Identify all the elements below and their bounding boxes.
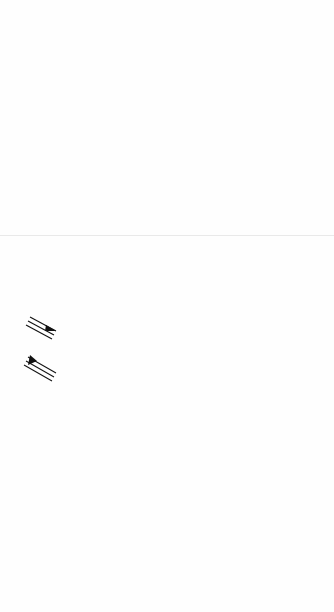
sinistral-fault-symbol xyxy=(24,355,56,381)
all-joints-rose-diagram xyxy=(0,0,334,340)
coal-shale-joints-rose-diagram xyxy=(0,430,334,612)
figure-canvas xyxy=(0,0,334,612)
fault-legend xyxy=(10,305,150,395)
dextral-fault-symbol xyxy=(26,317,56,339)
